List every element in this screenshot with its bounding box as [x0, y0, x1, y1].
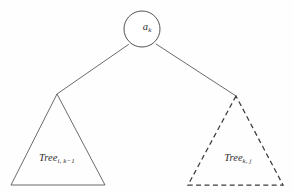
right-subtree-label-base: Tree — [224, 152, 242, 163]
tree-diagram-figure: ak Treei, k−1 Treek, j — [0, 0, 294, 194]
left-subtree-label: Treei, k−1 — [39, 152, 75, 164]
right-subtree-triangle — [188, 96, 283, 185]
edge-root-to-left-subtree — [57, 45, 129, 95]
root-node-label: ak — [0, 22, 294, 34]
right-subtree-label-subscript: k, j — [243, 157, 252, 164]
edge-root-to-right-subtree — [156, 44, 236, 96]
left-subtree-label-subscript: i, k−1 — [57, 157, 75, 164]
left-subtree-triangle — [11, 94, 105, 185]
left-subtree-label-base: Tree — [39, 152, 57, 163]
right-subtree-label: Treek, j — [224, 152, 251, 164]
root-node-label-subscript: k — [148, 26, 151, 34]
